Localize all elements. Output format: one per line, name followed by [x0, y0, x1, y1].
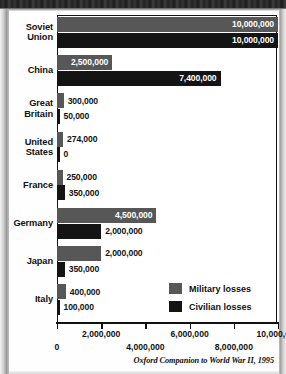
- chart-figure: SovietUnion10,000,00010,000,000China2,50…: [0, 0, 286, 374]
- bar-group: GreatBritain300,00050,000: [9, 93, 279, 131]
- bar-pair: 4,500,0002,000,000: [57, 208, 279, 246]
- bar-military-united-states: 274,000: [57, 132, 97, 147]
- legend-item-civilian: Civilian losses: [169, 301, 252, 312]
- bar-fill: [57, 262, 65, 277]
- bar-value-label: 350,000: [65, 189, 99, 198]
- bar-civilian-china: 7,400,000: [57, 71, 221, 86]
- bar-military-great-britain: 300,000: [57, 93, 98, 108]
- scan-artifact-right-edge: [279, 9, 286, 374]
- legend-swatch-military-icon: [169, 283, 182, 294]
- bar-value-label: 350,000: [65, 265, 99, 274]
- x-tick-10000000: [278, 322, 279, 329]
- x-tick-4000000: [145, 322, 146, 329]
- legend-label-military: Military losses: [189, 284, 251, 294]
- bar-value-label: 4,500,000: [115, 211, 156, 220]
- bar-value-label: 100,000: [60, 303, 94, 312]
- category-label-great-britain: GreatBritain: [9, 98, 53, 119]
- bar-fill: 2,500,000: [57, 55, 112, 70]
- bar-group: Germany4,500,0002,000,000: [9, 208, 279, 246]
- source-attribution: Oxford Companion to World War II, 1995: [133, 356, 274, 365]
- bar-value-label: 2,500,000: [71, 58, 112, 67]
- bar-fill: [57, 93, 64, 108]
- bar-civilian-japan: 350,000: [57, 262, 99, 277]
- bar-fill: [57, 185, 65, 200]
- bar-value-label: 0: [60, 150, 69, 159]
- bar-value-label: 300,000: [64, 97, 98, 106]
- category-label-germany: Germany: [9, 218, 53, 228]
- bar-fill: [57, 224, 101, 239]
- bar-civilian-great-britain: 50,000: [57, 109, 89, 124]
- bar-military-france: 250,000: [57, 170, 97, 185]
- x-tick-label-8000000: 8,000,000: [215, 342, 253, 352]
- legend-swatch-civilian-icon: [169, 301, 182, 312]
- x-tick-8000000: [234, 322, 235, 329]
- x-tick-label-10000000: 10,000,000: [256, 329, 286, 339]
- x-tick-2000000: [101, 322, 102, 329]
- bar-pair: 2,500,0007,400,000: [57, 55, 279, 93]
- bar-value-label: 274,000: [63, 135, 97, 144]
- bar-value-label: 50,000: [60, 112, 90, 121]
- bar-fill: 7,400,000: [57, 71, 221, 86]
- x-axis-ticks: [57, 322, 278, 329]
- bar-military-germany: 4,500,000: [57, 208, 156, 223]
- bar-group: China2,500,0007,400,000: [9, 55, 279, 93]
- bar-fill: [57, 246, 101, 261]
- bar-rows-container: SovietUnion10,000,00010,000,000China2,50…: [9, 15, 279, 322]
- bar-group: UnitedStates274,0000: [9, 132, 279, 170]
- bar-pair: 2,000,000350,000: [57, 246, 279, 284]
- bar-value-label: 400,000: [66, 288, 100, 297]
- scan-artifact-left-edge: [0, 9, 9, 374]
- category-label-united-states: UnitedStates: [9, 137, 53, 158]
- bar-pair: 300,00050,000: [57, 93, 279, 131]
- category-label-italy: Italy: [9, 294, 53, 304]
- x-tick-6000000: [190, 322, 191, 329]
- bar-value-label: 7,400,000: [179, 74, 220, 83]
- bar-fill: 4,500,000: [57, 208, 156, 223]
- bar-military-china: 2,500,000: [57, 55, 112, 70]
- bar-pair: 250,000350,000: [57, 170, 279, 208]
- x-axis-tick-labels: 02,000,0004,000,0006,000,0008,000,00010,…: [9, 11, 279, 43]
- bar-group: France250,000350,000: [9, 170, 279, 208]
- legend-label-civilian: Civilian losses: [189, 302, 252, 312]
- bar-military-italy: 400,000: [57, 284, 100, 299]
- bar-value-label: 2,000,000: [101, 227, 142, 236]
- x-tick-label-0: 0: [55, 342, 60, 352]
- bar-civilian-italy: 100,000: [57, 300, 94, 315]
- category-label-france: France: [9, 180, 53, 190]
- x-tick-label-6000000: 6,000,000: [170, 329, 208, 339]
- category-label-japan: Japan: [9, 256, 53, 266]
- bar-value-label: 250,000: [63, 173, 97, 182]
- bar-pair: 274,0000: [57, 132, 279, 170]
- chart-page: SovietUnion10,000,00010,000,000China2,50…: [9, 11, 279, 371]
- bar-civilian-germany: 2,000,000: [57, 224, 143, 239]
- bar-civilian-france: 350,000: [57, 185, 99, 200]
- bar-military-japan: 2,000,000: [57, 246, 143, 261]
- bar-group: Japan2,000,000350,000: [9, 246, 279, 284]
- chart-legend: Military losses Civilian losses: [169, 283, 252, 319]
- x-tick-0: [57, 322, 58, 329]
- bar-value-label: 2,000,000: [101, 249, 142, 258]
- bar-civilian-united-states: 0: [57, 147, 68, 162]
- x-tick-label-2000000: 2,000,000: [82, 329, 120, 339]
- category-label-china: China: [9, 65, 53, 75]
- x-tick-label-4000000: 4,000,000: [126, 342, 164, 352]
- bar-fill: [57, 284, 66, 299]
- legend-item-military: Military losses: [169, 283, 252, 294]
